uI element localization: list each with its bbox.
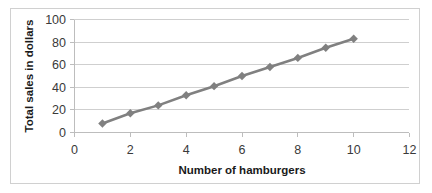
data-point-marker bbox=[322, 44, 330, 52]
data-point-marker bbox=[210, 82, 218, 90]
x-tick-label: 0 bbox=[71, 143, 78, 157]
series-line bbox=[102, 39, 353, 124]
line-chart: 100 80 60 40 20 0 0 2 4 6 8 10 12 Number… bbox=[11, 9, 419, 183]
y-tick-label: 80 bbox=[52, 36, 66, 50]
x-tick-label: 8 bbox=[294, 143, 301, 157]
y-tick-marks bbox=[70, 20, 74, 133]
data-point-marker bbox=[154, 101, 162, 109]
gridlines bbox=[74, 20, 409, 110]
y-axis-title: Total sales in dollars bbox=[23, 20, 35, 133]
x-tick-label: 10 bbox=[347, 143, 361, 157]
data-point-marker bbox=[266, 63, 274, 71]
data-point-marker bbox=[238, 72, 246, 80]
x-tick-label: 12 bbox=[403, 143, 417, 157]
y-tick-label: 60 bbox=[52, 58, 66, 72]
x-axis-title: Number of hamburgers bbox=[178, 164, 305, 176]
y-tick-label: 40 bbox=[52, 81, 66, 95]
data-point-marker bbox=[294, 54, 302, 62]
data-point-marker bbox=[182, 91, 190, 99]
y-tick-label: 0 bbox=[59, 126, 66, 140]
y-tick-label: 100 bbox=[45, 13, 66, 27]
x-tick-marks bbox=[75, 133, 410, 137]
chart-frame: 100 80 60 40 20 0 0 2 4 6 8 10 12 Number… bbox=[10, 8, 420, 184]
data-series bbox=[98, 35, 358, 128]
x-tick-labels: 0 2 4 6 8 10 12 bbox=[71, 143, 416, 157]
data-point-marker bbox=[98, 119, 106, 127]
y-tick-label: 20 bbox=[52, 103, 66, 117]
x-tick-label: 2 bbox=[127, 143, 134, 157]
x-tick-label: 4 bbox=[183, 143, 190, 157]
y-tick-labels: 100 80 60 40 20 0 bbox=[45, 13, 66, 140]
x-tick-label: 6 bbox=[239, 143, 246, 157]
